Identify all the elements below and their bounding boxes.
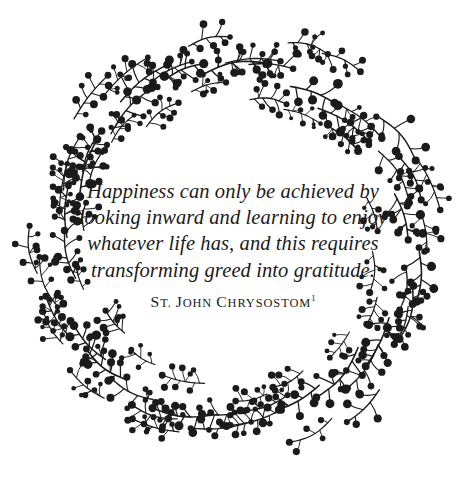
- quote-line-2: looking inward and learning to enjoy: [0, 204, 466, 230]
- quote-line-4: transforming greed into gratitude.: [0, 257, 466, 283]
- quote-line-3: whatever life has, and this requires: [0, 230, 466, 256]
- quote-attribution: ST. JOHN CHRYSOSTOM1: [0, 290, 466, 312]
- footnote-marker: 1: [311, 293, 315, 303]
- quote-card: Happiness can only be achieved by lookin…: [0, 0, 466, 485]
- attribution-st-cap: S: [151, 293, 161, 310]
- attribution-john-cap: J: [176, 293, 183, 310]
- quote-line-1: Happiness can only be achieved by: [0, 178, 466, 204]
- attribution-john-rest: OHN: [183, 296, 213, 310]
- attribution-chrysostom-cap: C: [216, 293, 227, 310]
- attribution-chrysostom-rest: HRYSOSTOM: [228, 296, 312, 310]
- quotation-block: Happiness can only be achieved by lookin…: [0, 178, 466, 312]
- attribution-st-rest: T.: [160, 296, 172, 310]
